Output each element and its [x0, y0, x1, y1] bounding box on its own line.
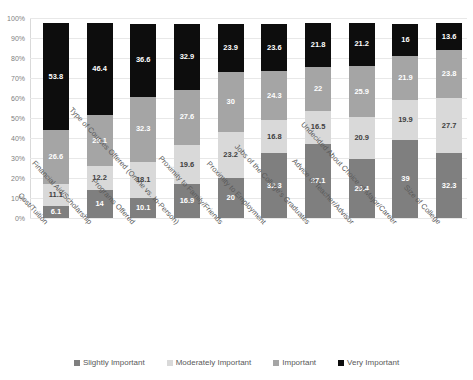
y-axis-tick-label: 100%: [7, 15, 25, 22]
bar-segment[interactable]: 16: [392, 24, 418, 56]
legend-swatch-icon: [273, 360, 279, 366]
bar-segment-value-label: 46.4: [92, 65, 107, 73]
bar-segment-value-label: 23.6: [267, 44, 282, 52]
bar-segment[interactable]: 32.3: [436, 153, 462, 218]
bar-segment[interactable]: 30: [218, 72, 244, 132]
bar-segment[interactable]: 53.8: [43, 23, 69, 131]
bar-segment[interactable]: 46.4: [87, 23, 113, 116]
bar-segment-value-label: 23.9: [223, 44, 238, 52]
bar-segment-value-label: 36.6: [136, 56, 151, 64]
y-axis-tick-label: 20%: [11, 175, 25, 182]
legend-item[interactable]: Very Important: [338, 358, 399, 367]
bar-segment[interactable]: 16.8: [261, 120, 287, 154]
y-axis-tick-label: 0%: [15, 215, 25, 222]
x-axis-category-labels: Cost/TuitionFinancial Aid/ScholarshipPro…: [30, 218, 467, 348]
bar-segment-value-label: 13.6: [442, 33, 457, 41]
bar-segment[interactable]: 32.3: [130, 97, 156, 162]
bar-stack[interactable]: 32.327.723.813.6: [436, 18, 462, 218]
legend-item[interactable]: Slightly Important: [74, 358, 145, 367]
legend-item[interactable]: Important: [273, 358, 316, 367]
bar-segment-value-label: 16.8: [267, 133, 282, 141]
legend-swatch-icon: [74, 360, 80, 366]
y-axis-tick-label: 80%: [11, 55, 25, 62]
bar-segment-value-label: 24.3: [267, 92, 282, 100]
y-axis-tick-label: 70%: [11, 75, 25, 82]
bar-segment-value-label: 39: [401, 175, 409, 183]
bar-segment-value-label: 21.9: [398, 74, 413, 82]
bar-segment[interactable]: 23.6: [261, 24, 287, 71]
bar-segment[interactable]: 13.6: [436, 23, 462, 50]
bar-segment-value-label: 16: [401, 36, 409, 44]
bar-segment-value-label: 53.8: [49, 73, 64, 81]
bar-segment[interactable]: 22: [305, 67, 331, 111]
bar-segment-value-label: 32.3: [136, 125, 151, 133]
bar-segment-value-label: 10.1: [136, 204, 151, 212]
bar-segment-value-label: 26.6: [49, 153, 64, 161]
y-axis-tick-label: 50%: [11, 115, 25, 122]
bar-segment-value-label: 30: [226, 98, 234, 106]
bar-segment[interactable]: 27.7: [436, 98, 462, 153]
bar-segment-value-label: 20.9: [354, 134, 369, 142]
bar-segment[interactable]: 27.6: [174, 90, 200, 145]
bar-segment[interactable]: 23.9: [218, 24, 244, 72]
y-axis-tick-label: 60%: [11, 95, 25, 102]
bar-segment[interactable]: 21.9: [392, 56, 418, 100]
legend-label: Slightly Important: [83, 358, 145, 367]
y-axis-tick-label: 30%: [11, 155, 25, 162]
legend-item[interactable]: Moderately Important: [167, 358, 252, 367]
bar-segment[interactable]: 39: [392, 140, 418, 218]
bar-segment-value-label: 21.2: [354, 40, 369, 48]
y-axis: 0%10%20%30%40%50%60%70%80%90%100%: [0, 18, 28, 218]
bar-segment-value-label: 32.9: [180, 53, 195, 61]
bar-segment-value-label: 32.3: [442, 182, 457, 190]
bar-segment[interactable]: 20.9: [349, 117, 375, 159]
bar-segment-value-label: 27.6: [180, 113, 195, 121]
legend-label: Important: [282, 358, 316, 367]
bar-segment-value-label: 22: [314, 85, 322, 93]
legend-swatch-icon: [167, 360, 173, 366]
bar-segment[interactable]: 21.8: [305, 23, 331, 67]
bar-segment[interactable]: 19.9: [392, 100, 418, 140]
bar-segment[interactable]: 21.2: [349, 23, 375, 65]
bar-segment-value-label: 14: [95, 200, 103, 208]
legend-swatch-icon: [338, 360, 344, 366]
bar-segment-value-label: 19.9: [398, 116, 413, 124]
bar-segment[interactable]: 36.6: [130, 24, 156, 97]
bar-segment[interactable]: 32.9: [174, 24, 200, 90]
legend-label: Very Important: [347, 358, 399, 367]
bar-segment-value-label: 6.1: [51, 208, 61, 216]
bar-segment[interactable]: 23.8: [436, 50, 462, 98]
y-axis-tick-label: 40%: [11, 135, 25, 142]
bar-segment-value-label: 27.7: [442, 122, 457, 130]
bar-segment-value-label: 23.8: [442, 70, 457, 78]
stacked-bar-chart: 0%10%20%30%40%50%60%70%80%90%100% 6.111.…: [0, 0, 473, 380]
y-axis-tick-label: 90%: [11, 35, 25, 42]
bar-segment-value-label: 19.6: [180, 161, 195, 169]
bar-segment-value-label: 25.9: [354, 88, 369, 96]
bar-segment-value-label: 21.8: [311, 41, 326, 49]
bar-segment[interactable]: 25.9: [349, 66, 375, 118]
legend-label: Moderately Important: [176, 358, 252, 367]
chart-legend: Slightly ImportantModerately ImportantIm…: [0, 358, 473, 367]
bar-segment[interactable]: 24.3: [261, 71, 287, 120]
